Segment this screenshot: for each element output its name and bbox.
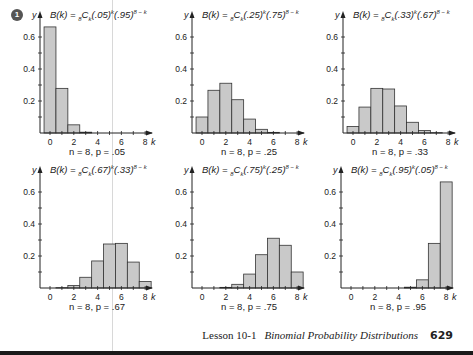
bar-k5 [256, 255, 268, 288]
bar-k7 [279, 245, 291, 288]
chart-svg: 0.20.40.602468yk [0, 155, 150, 305]
svg-text:0.6: 0.6 [324, 187, 336, 197]
lesson-label: Lesson 10-1 [202, 329, 256, 341]
binomial-chart-p33: 0.20.40.602468ykB(k) = 8Ck(.33)k(.67)8 −… [303, 0, 453, 150]
chart-formula: B(k) = 8Ck(.05)k(.95)8 − k [50, 9, 147, 22]
svg-text:y: y [332, 165, 338, 175]
chart-svg: 0.20.40.602468yk [152, 155, 302, 305]
svg-text:0.2: 0.2 [324, 251, 336, 261]
chart-svg: 0.20.40.602468yk [0, 0, 150, 150]
page-footer: Lesson 10-1Binomial Probability Distribu… [202, 329, 453, 342]
lesson-title: Binomial Probability Distributions [264, 329, 418, 341]
bar-k7 [127, 262, 139, 288]
svg-text:0.2: 0.2 [23, 96, 35, 106]
bar-k2 [371, 88, 383, 133]
chart-formula: B(k) = 8Ck(.25)k(.75)8 − k [202, 9, 299, 22]
bar-k6 [267, 238, 279, 288]
bar-k4 [244, 119, 256, 133]
bar-k2 [220, 83, 232, 133]
bar-k3 [383, 89, 395, 133]
bar-k4 [395, 106, 407, 133]
chart-svg: 0.20.40.602468yk [303, 0, 453, 150]
chart-formula: B(k) = 8Ck(.67)k(.33)8 − k [50, 164, 147, 177]
chart-svg: 0.20.40.602468yk [301, 155, 451, 305]
binomial-chart-p67: 0.20.40.602468ykB(k) = 8Ck(.67)k(.33)8 −… [0, 155, 150, 305]
chart-caption: n = 8, p = .95 [338, 301, 458, 312]
svg-text:0.6: 0.6 [175, 187, 187, 197]
chart-formula: B(k) = 8Ck(.95)k(.05)8 − k [351, 164, 448, 177]
svg-text:0.6: 0.6 [23, 32, 35, 42]
chart-svg: 0.20.40.602468yk [152, 0, 302, 150]
bar-k6 [115, 243, 127, 288]
binomial-chart-p05: 0.20.40.602468ykB(k) = 8Ck(.05)k(.95)8 −… [0, 0, 150, 150]
svg-text:0.6: 0.6 [326, 32, 338, 42]
svg-text:0.4: 0.4 [175, 219, 187, 229]
scan-bottom-edge [0, 351, 473, 355]
binomial-chart-p25: 0.20.40.602468ykB(k) = 8Ck(.25)k(.75)8 −… [152, 0, 302, 150]
bar-k1 [359, 107, 371, 133]
svg-text:0.4: 0.4 [326, 64, 338, 74]
chart-formula: B(k) = 8Ck(.33)k(.67)8 − k [353, 9, 450, 22]
svg-text:0.6: 0.6 [175, 32, 187, 42]
chart-formula: B(k) = 8Ck(.75)k(.25)8 − k [202, 164, 299, 177]
svg-text:y: y [31, 10, 37, 20]
svg-text:0.4: 0.4 [324, 219, 336, 229]
bar-k1 [208, 90, 220, 133]
binomial-chart-p95: 0.20.40.602468ykB(k) = 8Ck(.95)k(.05)8 −… [301, 155, 451, 305]
svg-text:y: y [183, 165, 189, 175]
svg-text:0.4: 0.4 [23, 64, 35, 74]
svg-text:y: y [31, 165, 37, 175]
bar-k8 [440, 182, 452, 288]
svg-text:0.4: 0.4 [175, 64, 187, 74]
svg-text:y: y [183, 10, 189, 20]
bar-k3 [232, 100, 244, 133]
chart-caption: n = 8, p = .67 [37, 301, 157, 312]
bar-k0 [196, 117, 208, 133]
chart-caption: n = 8, p = .75 [189, 301, 309, 312]
svg-text:y: y [334, 10, 340, 20]
svg-text:0.4: 0.4 [23, 219, 35, 229]
page-number: 629 [430, 329, 453, 342]
svg-text:0.2: 0.2 [175, 251, 187, 261]
svg-text:0.2: 0.2 [23, 251, 35, 261]
bar-k7 [428, 243, 440, 288]
bar-k1 [56, 88, 68, 133]
binomial-chart-p75: 0.20.40.602468ykB(k) = 8Ck(.75)k(.25)8 −… [152, 155, 302, 305]
svg-text:0.6: 0.6 [23, 187, 35, 197]
bar-k0 [44, 27, 56, 133]
bar-k4 [92, 261, 104, 288]
bar-k4 [244, 274, 256, 288]
bar-k5 [104, 244, 116, 288]
svg-text:0.2: 0.2 [175, 96, 187, 106]
svg-text:0.2: 0.2 [326, 96, 338, 106]
